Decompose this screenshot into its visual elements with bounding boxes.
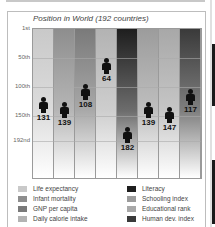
person-icon [186,89,195,105]
rank-value: 147 [159,123,180,132]
legend-label: Schooling index [142,195,188,202]
rank-marker: 139 [54,102,75,127]
legend-item: Literacy [127,184,165,193]
person-icon [39,97,48,113]
chart-title: Position in World (192 countries) [33,14,149,23]
y-tick-label: 1st [22,25,30,31]
legend-item: Human dev. index [127,214,194,223]
top-divider [6,0,205,2]
person-icon [102,58,111,74]
legend-label: Educational rank [142,205,190,212]
y-tick-label: 100th [15,83,30,89]
legend-label: Life expectancy [33,185,78,192]
rank-marker: 64 [96,58,117,83]
rank-value: 139 [138,118,159,127]
y-tick-label: 50th [18,54,30,60]
legend-swatch [127,206,136,212]
legend-swatch [18,206,27,212]
gridline [33,87,201,88]
legend-swatch [18,196,27,202]
gridline [33,58,201,59]
plot-area: 13113910864182139147117 [32,28,202,179]
legend-item: Life expectancy [18,184,78,193]
rank-value: 108 [75,100,96,109]
legend-item: Schooling index [127,194,188,203]
rank-marker: 139 [138,102,159,127]
rank-value: 182 [117,143,138,152]
person-icon [144,102,153,118]
rank-value: 117 [180,105,201,114]
legend-swatch [127,196,136,202]
legend-label: Daily calorie intake [33,215,88,222]
legend-swatch [18,186,27,192]
rank-value: 64 [96,74,117,83]
rank-marker: 147 [159,107,180,132]
bar-daily-calorie-intake [96,29,117,178]
adjacent-panel-edge [212,160,215,224]
legend-label: Literacy [142,185,165,192]
person-icon [165,107,174,123]
legend-label: Infant mortality [33,195,76,202]
person-icon [60,102,69,118]
legend-swatch [127,216,136,222]
legend-item: Educational rank [127,204,190,213]
rank-marker: 131 [33,97,54,122]
rank-marker: 117 [180,89,201,114]
y-tick-label: 192nd [13,137,30,143]
rank-marker: 182 [117,127,138,152]
person-icon [81,84,90,100]
rank-value: 139 [54,118,75,127]
bar-literacy [117,29,138,178]
legend-label: GNP per capita [33,205,77,212]
legend-label: Human dev. index [142,215,194,222]
legend-item: GNP per capita [18,204,77,213]
legend-item: Infant mortality [18,194,76,203]
rank-value: 131 [33,113,54,122]
adjacent-panel-edge [212,44,215,106]
legend-swatch [18,216,27,222]
rank-marker: 108 [75,84,96,109]
bar-educational-rank [159,29,180,178]
legend-item: Daily calorie intake [18,214,88,223]
legend-swatch [127,186,136,192]
person-icon [123,127,132,143]
y-tick-label: 150th [15,112,30,118]
